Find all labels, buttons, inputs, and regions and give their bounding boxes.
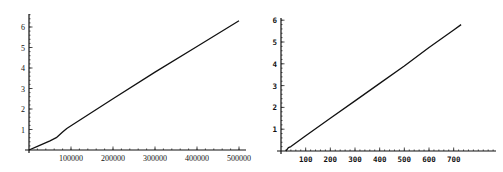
- y-tick-label: 5: [21, 44, 25, 53]
- x-tick-label: 200: [324, 155, 338, 164]
- y-tick-label: 1: [21, 126, 25, 135]
- right-chart: 123456100200300400500600700: [272, 16, 496, 164]
- y-tick-label: 3: [272, 82, 277, 91]
- x-tick-label: 200000: [101, 154, 125, 163]
- x-tick-label: 500000: [227, 154, 251, 163]
- y-tick-label: 3: [21, 85, 25, 94]
- x-tick-label: 100000: [59, 154, 83, 163]
- y-tick-label: 6: [21, 23, 25, 32]
- x-tick-label: 500: [398, 155, 412, 164]
- x-tick-label: 100: [299, 155, 313, 164]
- data-line: [286, 25, 461, 151]
- y-tick-label: 2: [21, 105, 25, 114]
- y-tick-label: 1: [272, 125, 277, 134]
- x-tick-label: 700: [447, 155, 461, 164]
- x-tick-label: 400: [373, 155, 387, 164]
- x-tick-label: 300000: [143, 154, 167, 163]
- left-chart: 123456100000200000300000400000500000: [21, 14, 251, 163]
- data-line: [29, 21, 239, 150]
- y-tick-label: 6: [272, 16, 277, 25]
- x-tick-label: 400000: [185, 154, 209, 163]
- x-tick-label: 300: [348, 155, 362, 164]
- y-tick-label: 4: [21, 64, 25, 73]
- y-tick-label: 5: [272, 38, 277, 47]
- y-tick-label: 4: [272, 60, 277, 69]
- x-tick-label: 600: [422, 155, 436, 164]
- charts-canvas: 123456100000200000300000400000500000 123…: [0, 0, 503, 172]
- y-tick-label: 2: [272, 103, 277, 112]
